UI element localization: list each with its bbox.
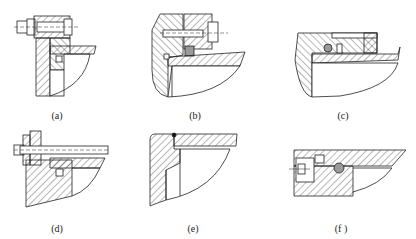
panel-c-label: (c)	[328, 110, 358, 121]
panel-a-label: (a)	[42, 110, 72, 121]
panel-e	[150, 133, 237, 206]
panel-a	[14, 16, 96, 96]
panel-f	[289, 150, 406, 196]
panel-c	[295, 33, 400, 97]
panel-d-label: (d)	[42, 223, 72, 234]
panel-d	[14, 131, 108, 207]
panel-f-label: (f )	[326, 223, 356, 234]
panel-e-label: (e)	[178, 223, 208, 234]
panel-b-label: (b)	[180, 110, 210, 121]
panel-b	[152, 14, 245, 97]
